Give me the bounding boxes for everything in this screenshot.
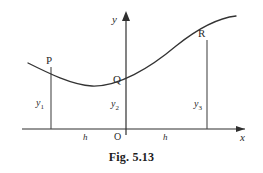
figure-caption: Fig. 5.13 bbox=[0, 150, 263, 165]
y-axis-arrowhead bbox=[122, 11, 130, 21]
point-label-q: Q bbox=[113, 74, 121, 85]
x-axis bbox=[22, 126, 245, 132]
figure-container: y x O P Q R y1 y2 y3 h h Fig. 5.13 bbox=[0, 0, 263, 173]
ordinate-label-y2: y2 bbox=[111, 99, 119, 112]
interval-label-h-right: h bbox=[163, 133, 168, 142]
y-axis bbox=[122, 11, 130, 135]
ordinate-label-y1-sub: 1 bbox=[40, 103, 44, 111]
ordinate-label-y3-sub: 3 bbox=[198, 104, 202, 112]
interval-label-h-left: h bbox=[83, 133, 88, 142]
ordinate-label-y1: y1 bbox=[36, 98, 44, 111]
ordinate-label-y3: y3 bbox=[194, 99, 202, 112]
ordinate-label-y2-sub: 2 bbox=[115, 104, 119, 112]
y-axis-label: y bbox=[112, 14, 117, 25]
x-axis-label: x bbox=[240, 132, 245, 143]
point-label-r: R bbox=[198, 28, 205, 39]
figure-drawing bbox=[0, 0, 263, 173]
origin-label: O bbox=[114, 132, 121, 142]
point-label-p: P bbox=[46, 55, 52, 66]
